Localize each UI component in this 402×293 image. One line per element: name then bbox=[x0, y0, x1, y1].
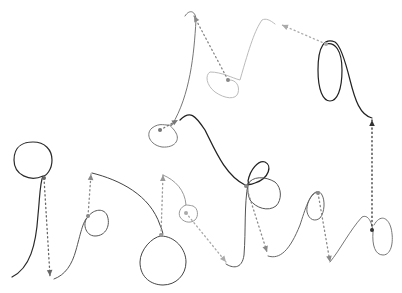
dotted-arrow-a9 bbox=[194, 16, 228, 80]
stroke-s8 bbox=[207, 19, 275, 98]
anchor-dot-icon bbox=[244, 184, 248, 188]
trajectory-svg bbox=[0, 0, 402, 293]
dotted-arrows-layer bbox=[42, 16, 375, 276]
anchor-dot-icon bbox=[226, 78, 230, 82]
stroke-s2 bbox=[54, 210, 108, 279]
arrowhead-icon bbox=[47, 270, 53, 276]
arrowhead-icon bbox=[88, 174, 94, 180]
stroke-s11 bbox=[318, 41, 372, 118]
stroke-s7 bbox=[226, 178, 280, 267]
anchor-dot-icon bbox=[86, 214, 90, 218]
anchor-dot-icon bbox=[158, 128, 162, 132]
stroke-s5 bbox=[149, 12, 196, 147]
stroke-s9 bbox=[268, 192, 324, 257]
arrowhead-icon bbox=[194, 16, 199, 23]
arrowhead-icon bbox=[369, 120, 375, 126]
anchor-dot-icon bbox=[316, 191, 320, 195]
dotted-arrow-a2 bbox=[88, 174, 91, 216]
trajectory-figure bbox=[0, 0, 402, 293]
stroke-s10 bbox=[330, 216, 392, 262]
dotted-arrow-a1 bbox=[44, 178, 50, 276]
anchor-dot-icon bbox=[42, 176, 46, 180]
dotted-arrow-a8 bbox=[282, 25, 326, 44]
dotted-arrow-a3 bbox=[161, 175, 163, 235]
stroke-s6 bbox=[180, 115, 269, 185]
stroke-s3 bbox=[92, 173, 186, 285]
stroke-s4 bbox=[163, 175, 197, 222]
anchor-dot-icon bbox=[184, 211, 188, 215]
dotted-arrow-a4 bbox=[186, 213, 226, 262]
strokes-layer bbox=[12, 12, 392, 285]
anchor-dot-icon bbox=[324, 42, 328, 46]
anchor-dot-icon bbox=[159, 233, 163, 237]
arrowhead-icon bbox=[263, 245, 268, 252]
stroke-s1 bbox=[12, 142, 52, 277]
anchor-dot-icon bbox=[370, 228, 374, 232]
